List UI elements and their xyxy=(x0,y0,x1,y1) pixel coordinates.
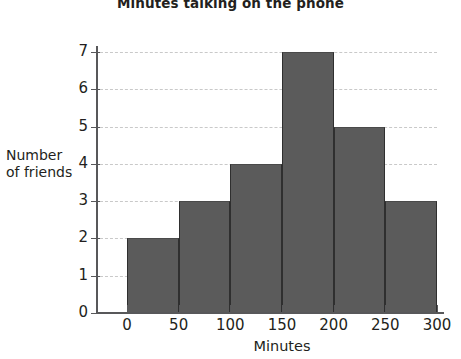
y-axis-title-line: of friends xyxy=(6,164,88,181)
histogram-bar xyxy=(179,201,231,313)
y-axis-tick xyxy=(91,164,100,165)
y-axis-title-line: Number xyxy=(6,147,88,164)
histogram-bar xyxy=(230,164,282,313)
gridline xyxy=(95,52,437,53)
y-axis-tick xyxy=(91,89,100,90)
y-axis-tick xyxy=(91,127,100,128)
y-axis-tick xyxy=(91,52,100,53)
x-axis-tick xyxy=(334,305,335,314)
y-axis-tick-label: 7 xyxy=(60,44,88,59)
plot-area xyxy=(127,52,437,313)
y-axis-tick xyxy=(91,238,100,239)
x-axis-tick xyxy=(127,305,128,314)
y-axis-tick-label: 1 xyxy=(60,268,88,283)
y-axis-tick xyxy=(91,276,100,277)
y-axis-tick-label: 0 xyxy=(60,305,88,320)
histogram-chart: Minutes talking on the phone 01234567 05… xyxy=(0,0,461,359)
y-axis-tick-label: 6 xyxy=(60,81,88,96)
histogram-bar xyxy=(127,238,179,313)
y-axis-tick xyxy=(91,313,100,314)
x-axis-tick xyxy=(282,305,283,314)
x-axis-tick xyxy=(385,305,386,314)
gridline xyxy=(95,89,437,90)
x-axis-tick xyxy=(179,305,180,314)
histogram-bar xyxy=(334,127,386,313)
x-axis-tick xyxy=(437,305,438,314)
y-axis-tick-label: 5 xyxy=(60,119,88,134)
histogram-bar xyxy=(385,201,437,313)
gridline xyxy=(95,127,437,128)
y-axis-tick-label: 3 xyxy=(60,193,88,208)
x-axis-title: Minutes xyxy=(127,338,437,354)
x-axis-line xyxy=(96,312,444,314)
x-axis-tick xyxy=(230,305,231,314)
y-axis-tick-label: 2 xyxy=(60,230,88,245)
chart-title: Minutes talking on the phone xyxy=(0,0,461,11)
y-axis-tick xyxy=(91,201,100,202)
x-axis-tick-label: 300 xyxy=(407,318,461,333)
y-axis-line xyxy=(96,46,98,314)
y-axis-title: Numberof friends xyxy=(6,147,88,180)
histogram-bar xyxy=(282,52,334,313)
